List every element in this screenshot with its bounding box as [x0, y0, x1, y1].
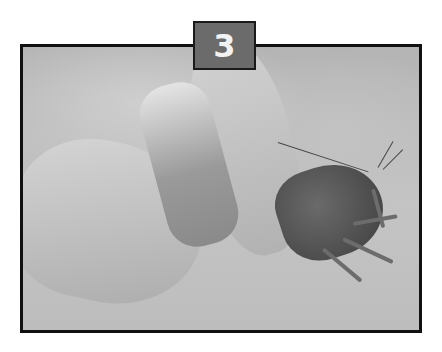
- photo-frame: [20, 44, 422, 333]
- step-number: 3: [213, 30, 235, 62]
- step-number-badge: 3: [193, 21, 256, 70]
